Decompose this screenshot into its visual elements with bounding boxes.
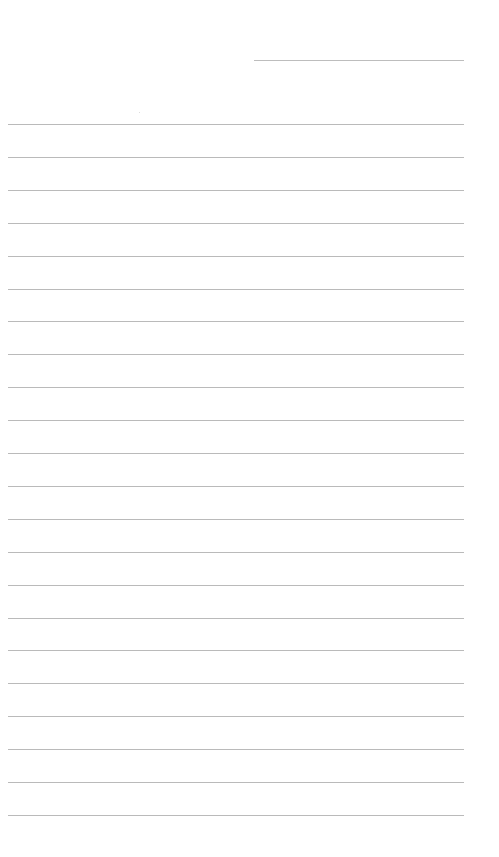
ruled-line[interactable] [8, 354, 464, 355]
ruled-line[interactable] [8, 782, 464, 783]
ruled-line[interactable] [8, 519, 464, 520]
ruled-line[interactable] [8, 683, 464, 684]
ruled-line[interactable] [8, 453, 464, 454]
ruled-line[interactable] [8, 420, 464, 421]
ruled-line[interactable] [8, 618, 464, 619]
ruled-line[interactable] [8, 223, 464, 224]
ruled-line[interactable] [8, 289, 464, 290]
ruled-line[interactable] [8, 552, 464, 553]
date-line[interactable] [254, 60, 464, 61]
ruled-line[interactable] [8, 124, 464, 125]
ruled-line[interactable] [8, 190, 464, 191]
ruled-line[interactable] [8, 486, 464, 487]
ruled-line[interactable] [8, 815, 464, 816]
ruled-line[interactable] [8, 387, 464, 388]
ruled-line[interactable] [8, 585, 464, 586]
ruled-line[interactable] [8, 321, 464, 322]
ruled-line[interactable] [8, 650, 464, 651]
ruled-line[interactable] [8, 157, 464, 158]
paper-speck [139, 112, 140, 113]
ruled-line[interactable] [8, 716, 464, 717]
ruled-line[interactable] [8, 256, 464, 257]
ruled-line[interactable] [8, 749, 464, 750]
